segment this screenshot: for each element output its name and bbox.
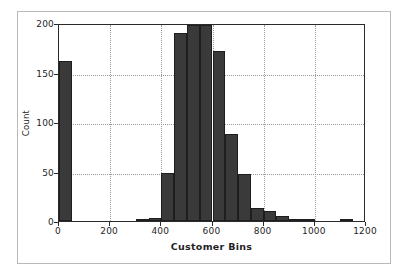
x-tick-label: 1000 <box>302 226 326 236</box>
histogram-bar <box>149 218 162 221</box>
x-axis-label: Customer Bins <box>58 241 365 252</box>
y-tick-mark <box>54 173 58 174</box>
histogram-bar <box>340 219 353 221</box>
histogram-bar <box>276 216 289 221</box>
histogram-bar <box>174 33 187 221</box>
histogram-bar <box>289 219 302 221</box>
histogram-bar <box>213 51 226 221</box>
histogram-bar <box>59 61 72 221</box>
y-axis-label: Count <box>21 110 31 136</box>
gridline-vertical <box>110 25 111 221</box>
histogram-bar <box>264 211 277 221</box>
histogram-bar <box>187 25 200 221</box>
histogram-bar <box>200 25 213 221</box>
histogram-bar <box>238 174 251 221</box>
x-tick-label: 200 <box>100 226 118 236</box>
x-tick-label: 600 <box>203 226 221 236</box>
y-tick-label: 100 <box>36 118 54 128</box>
histogram-bar <box>302 219 315 221</box>
y-tick-label: 0 <box>48 217 54 227</box>
y-tick-mark <box>54 24 58 25</box>
y-tick-label: 150 <box>36 69 54 79</box>
x-tick-label: 800 <box>254 226 272 236</box>
y-tick-mark <box>54 74 58 75</box>
x-tick-label: 1200 <box>353 226 377 236</box>
y-tick-label: 50 <box>42 168 54 178</box>
y-tick-mark <box>54 222 58 223</box>
histogram-bar <box>136 219 149 221</box>
gridline-vertical <box>315 25 316 221</box>
histogram-bar <box>161 173 174 221</box>
gridline-vertical <box>264 25 265 221</box>
histogram-bar <box>251 208 264 221</box>
histogram-bar <box>225 134 238 221</box>
x-tick-label: 0 <box>55 226 61 236</box>
figure-container: 020040060080010001200 050100150200 Custo… <box>0 0 407 275</box>
x-tick-label: 400 <box>151 226 169 236</box>
y-tick-label: 200 <box>36 19 54 29</box>
y-tick-mark <box>54 123 58 124</box>
plot-area <box>58 24 365 222</box>
